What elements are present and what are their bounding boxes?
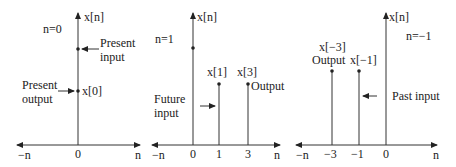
present-input-label-1: Present: [100, 36, 136, 50]
tick-m3: −3: [324, 147, 337, 161]
x-axis-right-label: n: [135, 148, 141, 162]
y-axis-label: x[n]: [389, 10, 409, 24]
output-label: Output: [312, 53, 346, 67]
x-axis-right-label: n: [274, 148, 280, 162]
stem-nm3-dot: [330, 69, 334, 73]
panel-past: x[n] n=−1 −n n −3 −1 0 x[−3] Output x[−1…: [296, 10, 440, 162]
x-axis-left-label: −n: [152, 148, 165, 162]
stem-n1-dot: [217, 82, 221, 86]
sample-0-dot: [191, 46, 195, 50]
sample-1-label: x[1]: [207, 65, 227, 79]
present-output-dot: [76, 89, 80, 93]
panel-future: x[n] n=1 −n n 0 1 3 x[1] x[3] Output Fut…: [152, 10, 285, 162]
x-axis-left-label: −n: [18, 148, 31, 162]
stem-n3-dot: [246, 82, 250, 86]
output-sample-label: x[0]: [82, 84, 102, 98]
tick-0: 0: [75, 147, 81, 161]
y-axis-label: x[n]: [84, 10, 104, 24]
present-input-dot: [76, 47, 80, 51]
tick-m1: −1: [351, 147, 364, 161]
tick-3: 3: [245, 147, 251, 161]
output-label: Output: [251, 79, 285, 93]
condition-label: n=1: [155, 32, 174, 46]
future-input-label-2: input: [154, 106, 179, 120]
x-axis-left-label: −n: [296, 148, 309, 162]
sample-m3-label: x[−3]: [319, 40, 346, 54]
stem-nm1-dot: [357, 69, 361, 73]
present-output-label-1: Present: [22, 78, 58, 92]
past-input-label: Past input: [392, 89, 440, 103]
tick-0: 0: [190, 147, 196, 161]
tick-1: 1: [216, 147, 222, 161]
condition-label: n=0: [43, 22, 62, 36]
tick-0: 0: [383, 147, 389, 161]
x-axis-right-label: n: [433, 148, 439, 162]
present-output-label-2: output: [22, 92, 53, 106]
panel-present: x[n] n=0 −n n 0 Present input Present ou…: [17, 10, 141, 162]
y-axis-label: x[n]: [197, 10, 217, 24]
condition-label: n=−1: [406, 29, 432, 43]
present-input-label-2: input: [100, 50, 125, 64]
sample-3-label: x[3]: [237, 65, 257, 79]
signal-diagram: x[n] n=0 −n n 0 Present input Present ou…: [0, 0, 456, 167]
sample-m1-label: x[−1]: [350, 53, 377, 67]
future-input-label-1: Future: [154, 92, 185, 106]
